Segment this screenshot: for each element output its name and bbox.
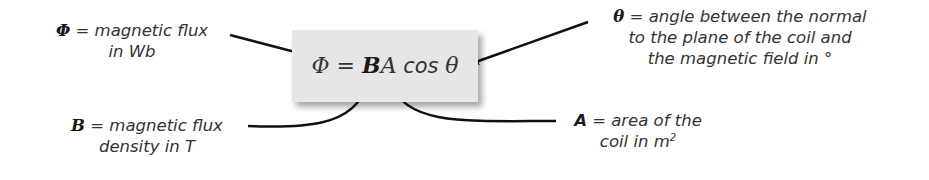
formula-b: B xyxy=(362,52,381,78)
theta-arrow xyxy=(470,22,588,64)
phi-label: Φ = magnetic flux in Wb xyxy=(32,20,232,62)
b-label: B = magnetic flux density in T xyxy=(52,115,242,157)
a-label: A = area of the coil in m2 xyxy=(558,110,718,152)
formula: Φ = BA cos θ xyxy=(292,52,478,78)
formula-phi: Φ xyxy=(312,53,330,78)
formula-a: A xyxy=(381,53,397,78)
formula-theta: θ xyxy=(445,53,458,78)
theta-label: θ = angle between the normal to the plan… xyxy=(585,6,895,69)
